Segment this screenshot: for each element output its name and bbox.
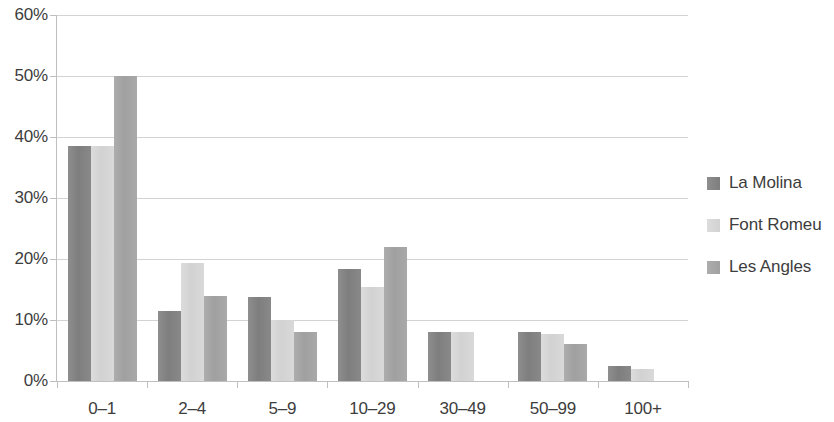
bar-chart: 0%10%20%30%40%50%60% 0–12–45–910–2930–49… (0, 0, 834, 422)
x-axis-tick-label: 2–4 (147, 396, 237, 422)
x-axis-tick (598, 381, 599, 388)
bar (564, 344, 587, 381)
bar-group (237, 15, 327, 381)
bar-group (418, 15, 508, 381)
y-axis-tick (50, 76, 56, 77)
y-axis-tick-label: 40% (2, 128, 48, 145)
bar (338, 269, 361, 381)
x-axis-tick (688, 381, 689, 388)
bar-group (57, 15, 147, 381)
y-axis-tick (50, 15, 56, 16)
bar (91, 146, 114, 381)
legend-item-label: La Molina (729, 173, 802, 193)
bar (518, 332, 541, 381)
bar-group (147, 15, 237, 381)
bar (114, 76, 137, 381)
x-axis-tick (237, 381, 238, 388)
y-axis-tick-label: 20% (2, 250, 48, 267)
x-axis-tick-label: 10–29 (327, 396, 417, 422)
x-axis-tick (57, 381, 58, 388)
chart-legend: La MolinaFont RomeuLes Angles (707, 162, 834, 288)
bar (541, 334, 564, 381)
bar-group (598, 15, 688, 381)
y-axis-tick (50, 137, 56, 138)
y-axis-tick (50, 320, 56, 321)
bar-group (327, 15, 417, 381)
y-axis-tick (50, 381, 56, 382)
x-axis-tick-label: 30–49 (418, 396, 508, 422)
x-axis-tick (147, 381, 148, 388)
bar (361, 287, 384, 381)
bar (271, 320, 294, 381)
y-axis-tick-label: 50% (2, 67, 48, 84)
bar (68, 146, 91, 381)
bar-groups (57, 15, 688, 381)
bar (181, 263, 204, 381)
legend-item[interactable]: Font Romeu (707, 204, 834, 246)
x-axis-tick (327, 381, 328, 388)
legend-item[interactable]: La Molina (707, 162, 834, 204)
legend-swatch-icon (707, 261, 720, 274)
x-axis-tick (418, 381, 419, 388)
legend-item-label: Les Angles (729, 257, 811, 277)
x-axis-tick-label: 0–1 (57, 396, 147, 422)
bar (428, 332, 451, 381)
legend-item-label: Font Romeu (729, 215, 822, 235)
legend-item[interactable]: Les Angles (707, 246, 834, 288)
bar (204, 296, 227, 381)
bar-group (508, 15, 598, 381)
y-axis-tick-label: 0% (2, 372, 48, 389)
bar (158, 311, 181, 381)
x-axis-tick-label: 50–99 (508, 396, 598, 422)
y-axis-tick-label: 10% (2, 311, 48, 328)
bar (631, 369, 654, 381)
bar (451, 332, 474, 381)
y-axis-tick-label: 30% (2, 189, 48, 206)
bar (608, 366, 631, 381)
legend-swatch-icon (707, 219, 720, 232)
y-axis-labels: 0%10%20%30%40%50%60% (0, 0, 48, 422)
y-axis-tick (50, 198, 56, 199)
y-axis-tick-label: 60% (2, 6, 48, 23)
x-axis-labels: 0–12–45–910–2930–4950–99100+ (57, 396, 688, 422)
x-axis-tick-label: 5–9 (237, 396, 327, 422)
legend-swatch-icon (707, 177, 720, 190)
x-axis-line (57, 381, 689, 382)
x-axis-tick (508, 381, 509, 388)
y-axis-tick (50, 259, 56, 260)
bar (248, 297, 271, 381)
bar (294, 332, 317, 381)
bar (384, 247, 407, 381)
x-axis-tick-label: 100+ (598, 396, 688, 422)
